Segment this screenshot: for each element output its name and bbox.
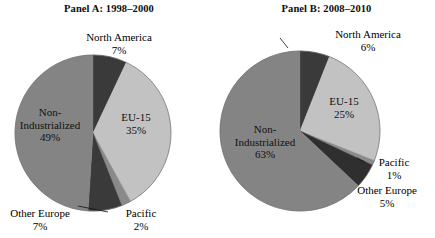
panel-b-label-non-industrialized-name1: Non- bbox=[219, 123, 311, 136]
panel-a-label-eu15: EU-15 35% bbox=[108, 111, 164, 136]
panel-b-label-north-america: North America 6% bbox=[309, 28, 427, 53]
panel-b-label-pacific-percent: 1% bbox=[366, 169, 422, 182]
panel-a-label-other-europe: Other Europe 7% bbox=[0, 207, 80, 232]
panel-b-label-other-europe-name: Other Europe bbox=[345, 184, 429, 197]
panel-b-label-eu15-name: EU-15 bbox=[316, 95, 372, 108]
panel-b-label-other-europe-percent: 5% bbox=[345, 197, 429, 210]
panel-a-label-non-industrialized: Non- Industrialized 49% bbox=[6, 106, 94, 144]
panel-a-label-pacific: Pacific 2% bbox=[113, 207, 169, 232]
leader-line-north-america bbox=[280, 38, 288, 48]
panel-a: Panel A: 1998–2000 North America 7% EU-1… bbox=[0, 0, 218, 238]
panel-b-label-non-industrialized-name2: Industrialized bbox=[219, 136, 311, 149]
panel-b-label-non-industrialized: Non- Industrialized 63% bbox=[219, 123, 311, 161]
panel-b-label-pacific: Pacific 1% bbox=[366, 156, 422, 181]
panel-a-label-north-america: North America 7% bbox=[64, 31, 174, 56]
panel-a-label-north-america-name: North America bbox=[64, 31, 174, 44]
panel-a-label-other-europe-percent: 7% bbox=[0, 220, 80, 233]
panel-a-label-non-industrialized-name1: Non- bbox=[6, 106, 94, 119]
panel-a-label-pacific-percent: 2% bbox=[113, 220, 169, 233]
panel-b-label-north-america-name: North America bbox=[309, 28, 427, 41]
panel-b-label-eu15-percent: 25% bbox=[316, 108, 372, 121]
panel-b: Panel B: 2008–2010 North America 6% EU-1… bbox=[218, 0, 435, 238]
panel-a-label-eu15-percent: 35% bbox=[108, 124, 164, 137]
panel-a-label-non-industrialized-name2: Industrialized bbox=[6, 119, 94, 132]
panel-a-label-non-industrialized-percent: 49% bbox=[6, 131, 94, 144]
panel-a-label-north-america-percent: 7% bbox=[64, 44, 174, 57]
pie-chart-figure: Panel A: 1998–2000 North America 7% EU-1… bbox=[0, 0, 435, 238]
panel-a-label-pacific-name: Pacific bbox=[113, 207, 169, 220]
panel-b-label-eu15: EU-15 25% bbox=[316, 95, 372, 120]
panel-b-label-non-industrialized-percent: 63% bbox=[219, 148, 311, 161]
panel-b-label-north-america-percent: 6% bbox=[309, 41, 427, 54]
panel-a-label-other-europe-name: Other Europe bbox=[0, 207, 80, 220]
panel-a-label-eu15-name: EU-15 bbox=[108, 111, 164, 124]
panel-b-label-other-europe: Other Europe 5% bbox=[345, 184, 429, 209]
panel-b-label-pacific-name: Pacific bbox=[366, 156, 422, 169]
